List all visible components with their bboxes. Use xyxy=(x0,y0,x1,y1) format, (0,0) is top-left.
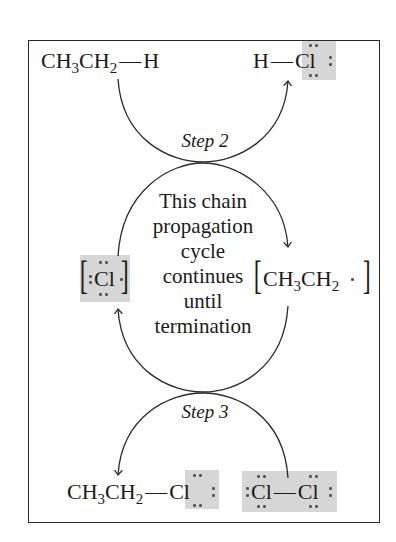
formula-part: CH xyxy=(67,479,98,504)
formula-subscript: 2 xyxy=(332,278,340,294)
right-bracket: ] xyxy=(121,256,129,296)
electron-dot xyxy=(257,505,260,508)
chlorine-atom: Cl xyxy=(295,48,316,73)
electron-dot xyxy=(329,487,332,490)
formula-subscript: 3 xyxy=(72,60,80,76)
right-bracket: ] xyxy=(363,256,371,296)
formula-subscript: 2 xyxy=(136,491,144,507)
formula-part: CH xyxy=(79,48,110,73)
chlorine-atom: Cl xyxy=(298,479,319,504)
radical-dot xyxy=(351,278,354,281)
bond-line: — xyxy=(274,479,296,504)
ethyl-radical: CH3CH2 xyxy=(263,268,339,290)
formula-part: CH xyxy=(263,266,294,291)
description-line: termination xyxy=(153,314,253,339)
electron-dot xyxy=(99,293,102,296)
description-line: until xyxy=(153,289,253,314)
electron-dot xyxy=(89,275,92,278)
electron-dot xyxy=(309,74,312,77)
electron-dot xyxy=(309,44,312,47)
chlorine-atom: Cl xyxy=(251,479,272,504)
electron-dot xyxy=(199,474,202,477)
formula-part: CH xyxy=(105,479,136,504)
electron-dot xyxy=(120,278,123,281)
electron-dot xyxy=(246,487,249,490)
electron-dot xyxy=(89,281,92,284)
electron-dot xyxy=(315,505,318,508)
cycle-description: This chain propagation cycle continues u… xyxy=(153,189,253,339)
electron-dot xyxy=(212,487,215,490)
chlorine-atom: Cl xyxy=(94,266,115,291)
description-line: cycle xyxy=(153,239,253,264)
electron-dot xyxy=(329,63,332,66)
electron-dot xyxy=(199,504,202,507)
electron-dot xyxy=(315,475,318,478)
hydrogen-atom: H xyxy=(253,48,269,73)
hcl-product: H—Cl xyxy=(253,50,316,72)
step-2-label: Step 2 xyxy=(182,130,229,152)
electron-dot xyxy=(193,504,196,507)
electron-dot xyxy=(329,494,332,497)
electron-dot xyxy=(105,293,108,296)
electron-dot xyxy=(309,505,312,508)
step-3-label: Step 3 xyxy=(182,401,229,423)
chloroethane-product: CH3CH2—Cl xyxy=(67,481,190,503)
electron-dot xyxy=(315,74,318,77)
bond-line: — xyxy=(271,48,293,73)
formula-part: CH xyxy=(41,48,72,73)
chlorine-atom: Cl xyxy=(169,479,190,504)
formula-subscript: 3 xyxy=(98,491,106,507)
bond-line: — xyxy=(145,479,167,504)
hydrogen-atom: H xyxy=(143,48,159,73)
description-line: This chain xyxy=(153,189,253,214)
electron-dot xyxy=(315,44,318,47)
formula-part: CH xyxy=(301,266,332,291)
ethane-reactant: CH3CH2—H xyxy=(41,50,159,72)
electron-dot xyxy=(212,494,215,497)
electron-dot xyxy=(105,261,108,264)
left-bracket: [ xyxy=(80,256,88,296)
description-line: continues xyxy=(153,264,253,289)
electron-dot xyxy=(263,505,266,508)
formula-subscript: 3 xyxy=(294,278,302,294)
formula-subscript: 2 xyxy=(110,60,118,76)
electron-dot xyxy=(257,475,260,478)
electron-dot xyxy=(193,474,196,477)
chlorine-molecule: Cl—Cl xyxy=(251,481,319,503)
electron-dot xyxy=(329,56,332,59)
bond-line: — xyxy=(119,48,141,73)
electron-dot xyxy=(263,475,266,478)
electron-dot xyxy=(246,494,249,497)
left-bracket: [ xyxy=(254,256,262,296)
chlorine-radical: Cl xyxy=(94,268,115,290)
description-line: propagation xyxy=(153,214,253,239)
electron-dot xyxy=(99,261,102,264)
electron-dot xyxy=(309,475,312,478)
